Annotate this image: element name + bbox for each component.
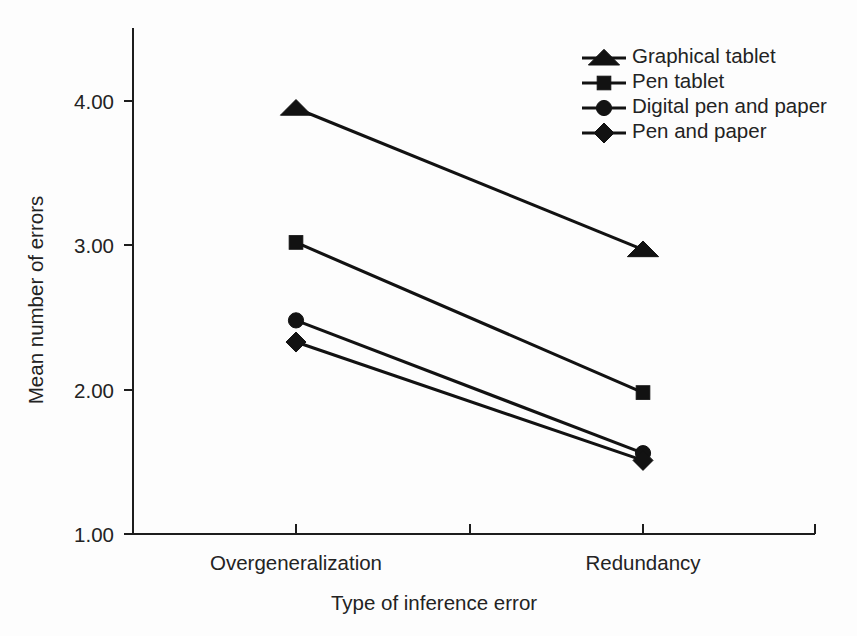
series-circle	[288, 313, 650, 461]
chart-legend: Graphical tabletPen tabletDigital pen an…	[582, 44, 827, 143]
data-point-square-0	[289, 236, 303, 250]
data-point-triangle-1	[627, 241, 658, 257]
chart-figure: 4.00 3.00 2.00 1.00 Overgeneralization R…	[0, 0, 857, 636]
series-line-circle	[296, 320, 643, 453]
legend-label-square: Pen tablet	[632, 69, 725, 92]
series-diamond	[286, 332, 653, 470]
legend-item-diamond: Pen and paper	[582, 119, 767, 143]
series-triangle	[280, 100, 658, 257]
y-tick-label-2: 2.00	[74, 379, 114, 402]
x-axis-title: Type of inference error	[331, 591, 537, 614]
data-point-square-1	[636, 386, 650, 400]
legend-item-circle: Digital pen and paper	[582, 94, 827, 117]
legend-marker-circle	[596, 100, 611, 115]
data-point-triangle-0	[280, 100, 311, 116]
x-category-label-overgeneralization: Overgeneralization	[210, 551, 382, 574]
series-layer	[280, 100, 658, 471]
y-axis-title: Mean number of errors	[24, 196, 47, 405]
legend-label-circle: Digital pen and paper	[632, 94, 827, 117]
legend-label-triangle: Graphical tablet	[632, 44, 776, 67]
series-line-triangle	[296, 108, 643, 249]
series-square	[289, 236, 650, 400]
chart-canvas: 4.00 3.00 2.00 1.00 Overgeneralization R…	[0, 0, 857, 636]
y-tick-label-1: 1.00	[74, 523, 114, 546]
series-line-diamond	[296, 342, 643, 460]
data-point-circle-0	[288, 313, 303, 328]
legend-item-square: Pen tablet	[582, 69, 725, 92]
x-category-label-redundancy: Redundancy	[585, 551, 701, 574]
legend-label-diamond: Pen and paper	[632, 119, 767, 142]
legend-item-triangle: Graphical tablet	[582, 44, 776, 67]
data-point-diamond-0	[286, 332, 306, 352]
y-tick-label-3: 3.00	[74, 234, 114, 257]
legend-marker-square	[597, 76, 611, 90]
legend-marker-diamond	[594, 123, 614, 143]
series-line-square	[296, 242, 643, 392]
y-tick-label-4: 4.00	[74, 90, 114, 113]
